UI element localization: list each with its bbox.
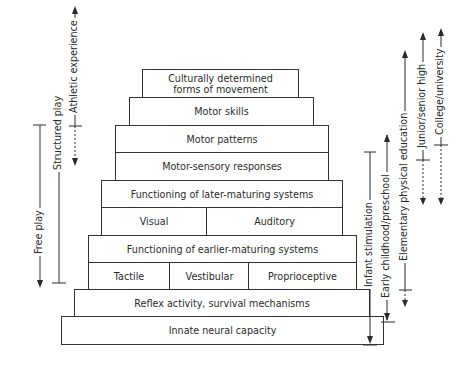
label-junior-senior-high: Junior/senior high: [416, 62, 427, 150]
label-free-play: Free play: [33, 208, 44, 256]
structured-play-bar: [52, 168, 66, 283]
label-early-childhood: Early childhood/preschool: [380, 172, 391, 300]
label-college-university: College/university: [434, 47, 445, 137]
label-infant-stimulation: Infant stimulation: [363, 200, 374, 289]
free-play-arrow: [33, 125, 46, 288]
label-athletic-experience: Athletic experience: [68, 18, 79, 115]
label-structured-play: Structured play: [52, 94, 63, 172]
label-elementary-pe: Elementary physical education: [398, 111, 409, 263]
